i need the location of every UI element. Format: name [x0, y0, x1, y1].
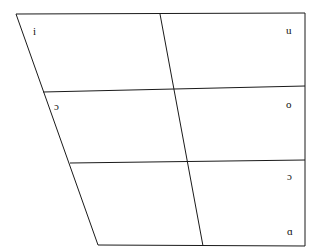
vowel-chart: i u ɔ o ɔ ɑ [0, 0, 320, 252]
vowel-label-close-back-rounded: u [286, 25, 292, 36]
vowel-quadrilateral-svg [0, 0, 320, 252]
vowel-label-open-back-unrounded: ɑ [287, 226, 293, 237]
vowel-label-open-mid-back-rounded: ɔ [287, 171, 292, 182]
vowel-label-close-mid-back-rounded: o [286, 99, 292, 110]
vowel-label-mid-left: ɔ [54, 101, 59, 112]
quadrilateral-outline [16, 13, 305, 246]
vowel-label-close-front-unrounded: i [33, 26, 36, 37]
